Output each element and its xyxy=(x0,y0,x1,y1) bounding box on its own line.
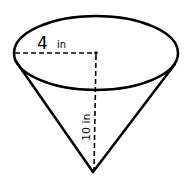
cone-right-side xyxy=(93,64,175,172)
radius-unit: in xyxy=(57,39,66,50)
center-point xyxy=(94,51,98,55)
radius-value: 4 xyxy=(37,33,48,53)
height-label: 10 in xyxy=(80,113,93,141)
cone-diagram: 4 in 10 in xyxy=(0,0,184,188)
height-line xyxy=(94,55,96,170)
